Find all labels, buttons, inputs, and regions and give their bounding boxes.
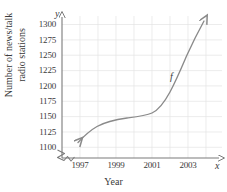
curve-f: [78, 21, 204, 143]
y-tick-label: 1175: [30, 96, 56, 106]
y-axis-title-line1: Number of news/talk: [2, 0, 15, 118]
chart-figure: 1300 1275 1250 1225 1200 1175 1150 1125 …: [0, 0, 227, 192]
x-axis-title: Year: [0, 176, 227, 187]
curve-label-f: f: [170, 71, 173, 82]
y-tick-label: 1150: [30, 111, 56, 121]
y-axis-title-line2: radio stations: [15, 0, 28, 118]
y-tick-label: 1200: [30, 81, 56, 91]
y-tick-label: 1225: [30, 65, 56, 75]
y-tick-label: 1125: [30, 127, 56, 137]
x-tick-label: 1999: [101, 160, 131, 170]
y-axis-title: Number of news/talk radio stations: [2, 0, 32, 118]
y-axis-symbol: y: [55, 8, 59, 19]
y-tick-label: 1100: [30, 142, 56, 152]
x-tick-label: 1997: [65, 160, 95, 170]
y-tick-label: 1300: [30, 19, 56, 29]
x-tick-label: 2001: [137, 160, 167, 170]
y-tick-label: 1275: [30, 35, 56, 45]
y-tick-label: 1250: [30, 50, 56, 60]
grid-horizontal: [62, 25, 222, 148]
x-axis-symbol: x: [215, 160, 219, 171]
grid-vertical: [80, 16, 206, 158]
x-tick-label: 2003: [173, 160, 203, 170]
